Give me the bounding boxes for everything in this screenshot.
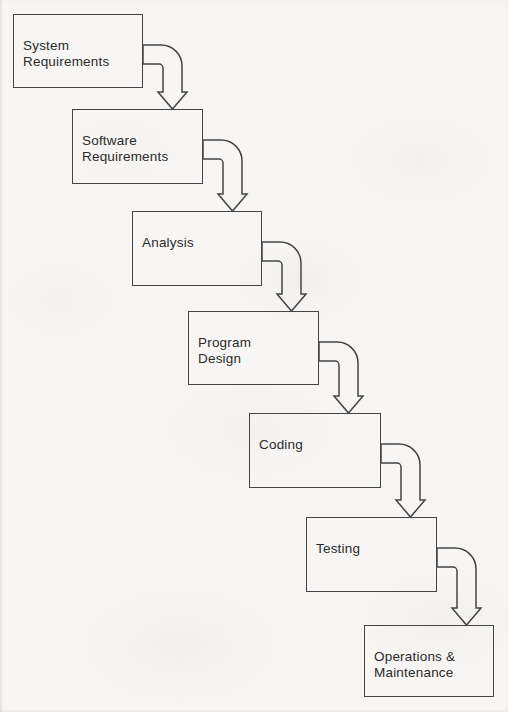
node-box-operations-maintenance: Operations & Maintenance (364, 625, 494, 697)
scanned-waterfall-diagram-page: System Requirements Software Requirement… (0, 0, 508, 712)
node-label-analysis: Analysis (142, 235, 194, 250)
node-label-testing: Testing (316, 541, 360, 556)
node-label-program-design: Program Design (198, 335, 251, 366)
bent-arrow-testing-to-operations-icon (437, 548, 481, 625)
node-box-testing: Testing (306, 517, 437, 592)
node-label-coding: Coding (259, 437, 303, 452)
node-box-coding: Coding (249, 413, 381, 488)
node-box-software-requirements: Software Requirements (72, 109, 203, 184)
node-label-system-requirements: System Requirements (23, 38, 109, 69)
node-box-analysis: Analysis (132, 211, 262, 286)
node-box-system-requirements: System Requirements (13, 14, 143, 88)
node-box-program-design: Program Design (188, 311, 319, 385)
bent-arrow-coding-to-testing-icon (381, 444, 425, 517)
bent-arrow-system-to-software-icon (143, 45, 187, 109)
bent-arrow-program-design-to-coding-icon (319, 342, 363, 413)
bent-arrow-software-to-analysis-icon (203, 140, 247, 211)
node-label-software-requirements: Software Requirements (82, 133, 168, 164)
bent-arrow-analysis-to-program-design-icon (262, 242, 306, 311)
node-label-operations-maintenance: Operations & Maintenance (374, 649, 455, 680)
